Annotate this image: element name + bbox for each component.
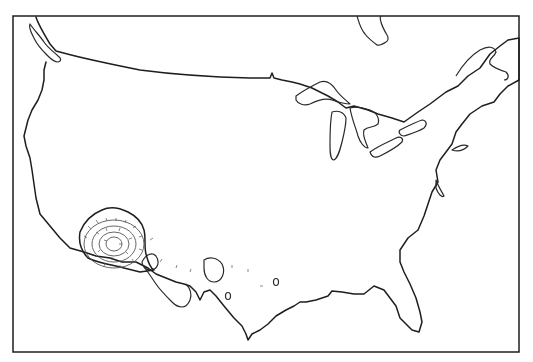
vancouver-island bbox=[29, 24, 60, 62]
baja-lobe bbox=[142, 254, 158, 270]
contour-region bbox=[79, 208, 263, 286]
lake-erie bbox=[370, 137, 403, 157]
long-island bbox=[452, 145, 468, 151]
hudson-bay-tip bbox=[357, 16, 388, 45]
chesapeake-bay bbox=[436, 180, 444, 197]
texas-bay-lobe bbox=[204, 258, 224, 282]
small-lake bbox=[274, 279, 279, 286]
gulf-of-california bbox=[144, 267, 191, 307]
contour-region-outline bbox=[79, 208, 154, 272]
map-container bbox=[0, 0, 533, 362]
us-outline-map bbox=[0, 0, 533, 362]
contour-ring-1 bbox=[84, 220, 144, 268]
contour-ring-3 bbox=[99, 232, 129, 256]
us-coastline bbox=[24, 17, 519, 340]
small-lake bbox=[226, 293, 231, 300]
st-lawrence-coast bbox=[456, 47, 508, 80]
lake-michigan bbox=[330, 111, 346, 160]
map-frame bbox=[13, 16, 519, 352]
